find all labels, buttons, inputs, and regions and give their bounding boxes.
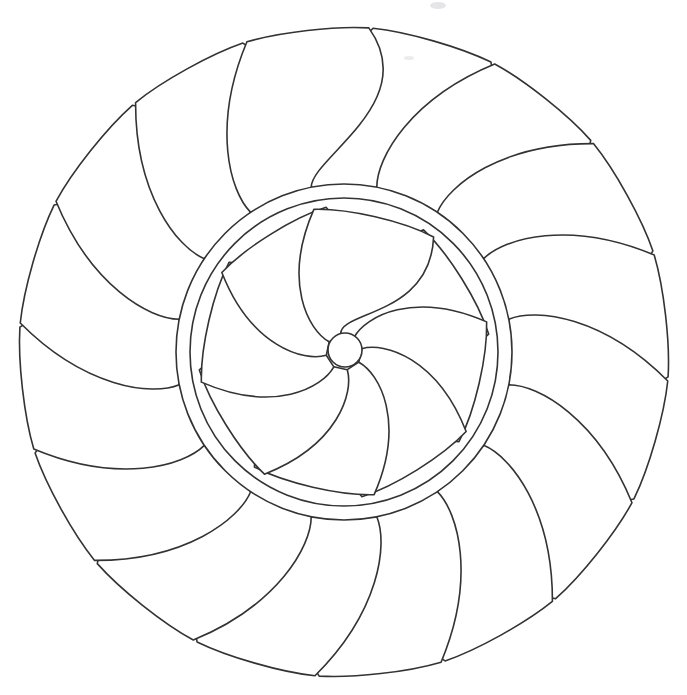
scan-smudge-top [430,2,446,9]
flower-mandala-svg: Flower Mandala Coloring Page [0,0,687,695]
center-hub-circle [328,333,362,367]
artboard: Flower Mandala Coloring Page Flower Mand… [0,0,687,695]
scan-smudge-upper-right [404,56,414,60]
center-hub-group [328,333,362,367]
